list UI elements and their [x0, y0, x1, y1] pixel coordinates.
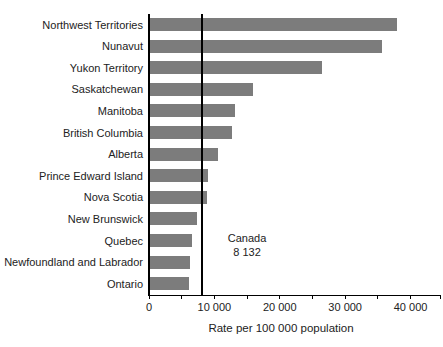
bar [150, 148, 218, 161]
canada-annotation: Canada 8 132 [212, 231, 282, 259]
x-tick-label: 0 [119, 301, 179, 313]
x-tick-label: 30 000 [315, 301, 375, 313]
bar [150, 126, 232, 139]
x-tick [312, 295, 313, 299]
category-label: Nova Scotia [84, 190, 143, 204]
category-label: New Brunswick [68, 212, 143, 226]
canada-reference-line [201, 14, 203, 295]
bar [150, 104, 235, 117]
bar [150, 277, 189, 290]
x-axis-title: Rate per 100 000 population [120, 322, 442, 334]
bar [150, 40, 382, 53]
x-axis-line [148, 295, 441, 296]
x-tick [377, 295, 378, 299]
category-label: Newfoundland and Labrador [4, 255, 143, 269]
x-tick [410, 295, 411, 299]
x-tick [181, 295, 182, 299]
category-label: Quebec [104, 234, 143, 248]
category-label: British Columbia [63, 126, 143, 140]
x-tick [279, 295, 280, 299]
x-tick [149, 295, 150, 299]
category-label: Alberta [108, 147, 143, 161]
bar [150, 191, 207, 204]
bar-chart: Northwest TerritoriesNunavutYukon Territ… [0, 0, 443, 347]
x-tick-label: 10 000 [184, 301, 244, 313]
bar [150, 18, 397, 31]
bar [150, 234, 192, 247]
canada-annotation-value: 8 132 [212, 245, 282, 259]
category-label: Yukon Territory [70, 61, 143, 75]
canada-annotation-label: Canada [212, 231, 282, 245]
x-tick [247, 295, 248, 299]
category-label: Manitoba [98, 104, 143, 118]
category-label: Northwest Territories [42, 18, 143, 32]
bar [150, 169, 208, 182]
x-tick-label: 20 000 [250, 301, 310, 313]
x-tick-label: 40 000 [381, 301, 441, 313]
x-tick [214, 295, 215, 299]
bar [150, 212, 197, 225]
bar [150, 61, 322, 74]
x-tick [440, 295, 441, 299]
bar [150, 256, 190, 269]
category-label: Ontario [107, 277, 143, 291]
category-label: Saskatchewan [71, 82, 143, 96]
category-label: Nunavut [102, 39, 143, 53]
y-axis-line [148, 14, 150, 295]
x-tick [345, 295, 346, 299]
category-label: Prince Edward Island [39, 169, 143, 183]
